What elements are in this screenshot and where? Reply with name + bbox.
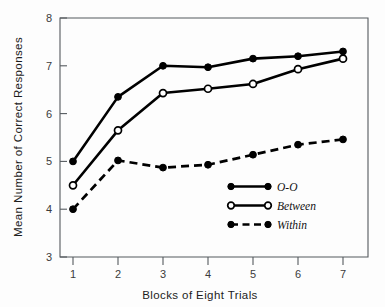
- series-layer: [70, 48, 347, 213]
- data-point: [340, 55, 347, 62]
- legend-label-between: Between: [277, 200, 316, 212]
- data-point: [340, 48, 347, 55]
- line-chart: 8 7 6 5 4 3 1 2 3 4 5 6 7 Blocks: [0, 0, 385, 307]
- y-axis-tick-labels: 8 7 6 5 4 3: [46, 12, 52, 263]
- x-axis-ticks: [73, 257, 343, 265]
- x-tick-label-4: 4: [205, 268, 211, 280]
- x-tick-label-3: 3: [160, 268, 166, 280]
- data-point: [250, 80, 257, 87]
- x-tick-label-2: 2: [115, 268, 121, 280]
- data-point: [115, 127, 122, 134]
- legend-marker-open-circle: [228, 202, 235, 209]
- y-tick-label-6: 6: [46, 108, 52, 120]
- x-tick-label-6: 6: [295, 268, 301, 280]
- x-axis-title: Blocks of Eight Trials: [142, 289, 258, 301]
- data-point: [160, 164, 167, 171]
- data-point: [160, 90, 167, 97]
- legend-entry-between[interactable]: Between: [228, 200, 317, 212]
- legend-marker-filled-circle: [228, 221, 234, 227]
- legend-label-oo: O-O: [277, 181, 298, 193]
- y-axis-title: Mean Number of Correct Responses: [12, 37, 24, 237]
- data-point: [250, 151, 257, 158]
- data-point: [70, 182, 77, 189]
- data-point: [295, 141, 302, 148]
- y-tick-label-3: 3: [46, 251, 52, 263]
- y-tick-label-5: 5: [46, 155, 52, 167]
- legend-marker-open-circle: [265, 202, 272, 209]
- y-tick-label-8: 8: [46, 12, 52, 24]
- series-o-o: [70, 48, 347, 165]
- x-tick-label-7: 7: [340, 268, 346, 280]
- y-tick-label-4: 4: [46, 203, 52, 215]
- data-point: [295, 53, 302, 60]
- data-point: [295, 66, 302, 73]
- data-point: [70, 206, 77, 213]
- x-tick-label-1: 1: [70, 268, 76, 280]
- data-point: [340, 136, 347, 143]
- data-point: [205, 85, 212, 92]
- data-point: [160, 62, 167, 69]
- legend-entry-oo[interactable]: O-O: [228, 181, 298, 193]
- legend-marker-filled-circle: [265, 221, 271, 227]
- x-tick-label-5: 5: [250, 268, 256, 280]
- y-tick-label-7: 7: [46, 60, 52, 72]
- data-point: [115, 93, 122, 100]
- data-point: [205, 64, 212, 71]
- legend-marker-filled-circle: [265, 183, 271, 189]
- data-point: [250, 55, 257, 62]
- chart-legend: O-O Between Within: [228, 181, 317, 231]
- legend-label-within: Within: [277, 219, 307, 231]
- data-point: [205, 161, 212, 168]
- y-axis-ticks: [60, 18, 67, 257]
- legend-marker-filled-circle: [228, 183, 234, 189]
- data-point: [70, 158, 77, 165]
- legend-entry-within[interactable]: Within: [228, 219, 307, 231]
- data-point: [115, 157, 122, 164]
- figure-container: 8 7 6 5 4 3 1 2 3 4 5 6 7 Blocks: [0, 0, 385, 307]
- x-axis-tick-labels: 1 2 3 4 5 6 7: [70, 268, 346, 280]
